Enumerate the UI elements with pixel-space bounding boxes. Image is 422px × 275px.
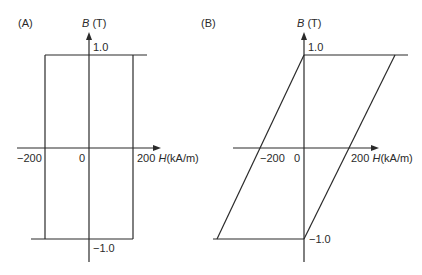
panel-b-top-tick: 1.0 [308,42,323,53]
panel-a-graphics [17,32,161,262]
panel-a-y-symbol: B [82,17,89,29]
panel-a-x-axis-title: 200 H(kA/m) [137,153,199,164]
panel-a-bottom-tick: −1.0 [93,243,115,254]
panel-b-label: (B) [201,18,216,29]
panel-b-right-slant [304,55,395,239]
panel-a-y-unit: (T) [92,17,106,29]
panel-a-y-axis-title: B (T) [82,18,106,29]
panel-b-b-axis-arrow [301,32,307,40]
panel-a-right-tick: 200 [137,152,155,164]
panel-a-left-tick: −200 [17,153,42,164]
panel-b-left-tick: −200 [260,153,285,164]
panel-a-x-unit: (kA/m) [166,152,198,164]
panel-a-label: (A) [18,18,33,29]
panel-b-y-unit: (T) [307,17,321,29]
panel-b-x-unit: (kA/m) [380,152,412,164]
panel-b-y-symbol: B [297,17,304,29]
panel-b-graphics [213,32,408,262]
panel-a-origin-label: 0 [79,153,85,164]
panel-b-bottom-tick: −1.0 [309,234,331,245]
panel-b-right-tick: 200 [351,152,369,164]
panel-b-left-slant [217,55,304,239]
panel-a-h-axis-arrow [153,145,161,151]
panel-a-top-tick: 1.0 [93,42,108,53]
panel-a-b-axis-arrow [86,32,92,40]
panel-b-origin-label: 0 [294,153,300,164]
hysteresis-diagram [0,0,422,275]
panel-b-y-axis-title: B (T) [297,18,321,29]
panel-b-h-axis-arrow [371,145,379,151]
panel-b-x-axis-title: 200 H(kA/m) [351,153,413,164]
